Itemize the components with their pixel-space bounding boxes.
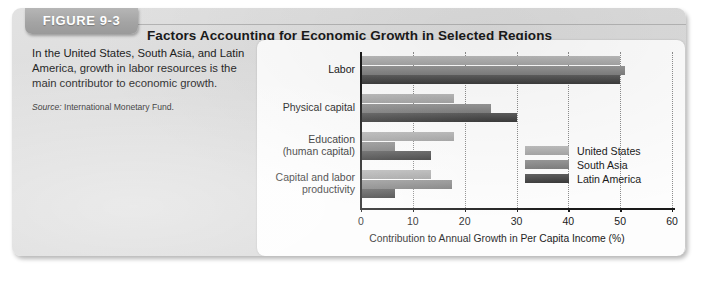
y-axis-line bbox=[360, 52, 362, 209]
caption-block: In the United States, South Asia, and La… bbox=[32, 46, 250, 112]
legend-label: United States bbox=[577, 145, 641, 157]
x-tick-label: 10 bbox=[398, 215, 428, 227]
legend-item-us: United States bbox=[525, 144, 675, 157]
bar-us-1 bbox=[361, 94, 454, 103]
bar-us-3 bbox=[361, 170, 431, 179]
legend-item-sa: South Asia bbox=[525, 158, 675, 171]
bar-la-3 bbox=[361, 189, 395, 198]
category-label: Capital and laborproductivity bbox=[257, 171, 355, 196]
chart-legend: United StatesSouth AsiaLatin America bbox=[525, 144, 675, 186]
x-axis-title: Contribution to Annual Growth in Per Cap… bbox=[317, 233, 677, 244]
x-tick-label: 40 bbox=[553, 215, 583, 227]
source-line: Source: International Monetary Fund. bbox=[32, 102, 250, 112]
legend-swatch-us bbox=[525, 146, 569, 155]
legend-item-la: Latin America bbox=[525, 172, 675, 185]
legend-label: Latin America bbox=[577, 173, 641, 185]
category-label-line: (human capital) bbox=[257, 145, 355, 157]
category-label-line: Physical capital bbox=[257, 101, 355, 113]
x-tick-label: 0 bbox=[346, 215, 376, 227]
caption-text: In the United States, South Asia, and La… bbox=[32, 46, 250, 91]
chart-panel: 0102030405060 LaborPhysical capitalEduca… bbox=[257, 40, 685, 256]
category-label-line: Labor bbox=[257, 63, 355, 75]
bar-sa-1 bbox=[361, 104, 491, 113]
category-label-line: Education bbox=[257, 133, 355, 145]
legend-swatch-la bbox=[525, 174, 569, 183]
bar-la-2 bbox=[361, 151, 431, 160]
source-text: International Monetary Fund. bbox=[64, 102, 174, 112]
bar-sa-3 bbox=[361, 180, 452, 189]
figure-number-label: FIGURE 9-3 bbox=[25, 13, 138, 28]
x-tick-label: 30 bbox=[502, 215, 532, 227]
legend-swatch-sa bbox=[525, 160, 569, 169]
x-tick-label: 20 bbox=[450, 215, 480, 227]
title-divider bbox=[138, 24, 686, 25]
category-label-line: productivity bbox=[257, 183, 355, 195]
bar-la-0 bbox=[361, 75, 620, 84]
legend-label: South Asia bbox=[577, 159, 628, 171]
x-axis-line bbox=[360, 208, 675, 210]
plot-area: 0102030405060 LaborPhysical capitalEduca… bbox=[257, 40, 685, 256]
bar-la-1 bbox=[361, 113, 517, 122]
bar-sa-2 bbox=[361, 142, 395, 151]
source-label: Source: bbox=[32, 102, 62, 112]
figure-number-tab: FIGURE 9-3 bbox=[25, 8, 138, 34]
x-tick-label: 60 bbox=[657, 215, 685, 227]
bar-us-2 bbox=[361, 132, 454, 141]
bar-sa-0 bbox=[361, 66, 625, 75]
category-label: Physical capital bbox=[257, 101, 355, 113]
category-label: Labor bbox=[257, 63, 355, 75]
bar-us-0 bbox=[361, 56, 620, 65]
category-label: Education(human capital) bbox=[257, 133, 355, 158]
x-tick-label: 50 bbox=[605, 215, 635, 227]
category-label-line: Capital and labor bbox=[257, 171, 355, 183]
figure-card: FIGURE 9-3 Factors Accounting for Econom… bbox=[12, 8, 686, 256]
